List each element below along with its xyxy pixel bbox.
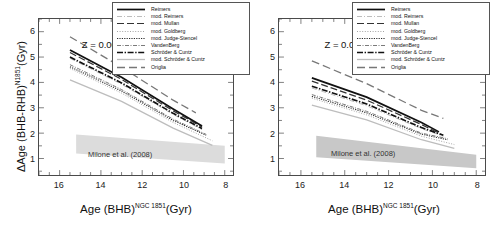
x-tick-label: 14 <box>96 180 106 190</box>
legend-swatch-icon <box>116 13 146 20</box>
legend-swatch-icon <box>116 20 146 27</box>
x-axis-label-left: Age (BHB)NGC 1851(Gyr) <box>80 202 192 215</box>
band-label-right: Milone et al. (2008) <box>331 149 395 158</box>
legend-label: Reimers <box>391 6 410 13</box>
x-tick-label: 12 <box>137 180 147 190</box>
panel-left: 161412108 123456 Z = 0.001 Milone et al.… <box>0 0 252 225</box>
x-tick-label: 16 <box>54 180 64 190</box>
panel-right: 161412108 123456 Z = 0.002 Milone et al.… <box>252 0 504 225</box>
x-tick-label: 10 <box>428 180 438 190</box>
y-axis-label-unit: (Gyr) <box>15 41 27 66</box>
y-axis-label-main: ΔAge (BHB-RHB) <box>15 85 27 172</box>
x-axis-label-sup: NGC 1851 <box>135 202 166 209</box>
legend-swatch-icon <box>356 56 386 63</box>
legend-right: Reimersmod. Reimersmod. Mullanmod. Goldb… <box>352 2 490 75</box>
legend-label: mod. Schröder & Cuntz <box>391 56 445 63</box>
x-axis-label-main: Age (BHB) <box>80 203 135 215</box>
legend-item: mod. Mullan <box>116 20 245 27</box>
legend-item: VandenBerg <box>116 42 245 49</box>
x-axis-label-sup: NGC 1851 <box>383 202 414 209</box>
legend-label: mod. Mullan <box>151 20 179 27</box>
x-tick-label: 10 <box>179 180 189 190</box>
legend-item: Origlia <box>356 64 485 71</box>
x-axis-label-unit: (Gyr) <box>414 203 440 215</box>
y-tick-label: 1 <box>264 154 275 164</box>
legend-swatch-icon <box>356 35 386 42</box>
legend-item: mod. Reimers <box>116 13 245 20</box>
legend-label: mod. Goldberg <box>391 28 425 35</box>
legend-label: Origlia <box>151 64 166 71</box>
legend-item: mod. Schröder & Cuntz <box>356 56 485 63</box>
legend-item: mod. Judge-Stencel <box>116 35 245 42</box>
legend-item: mod. Reimers <box>356 13 485 20</box>
legend-swatch-icon <box>116 6 146 13</box>
legend-label: mod. Judge-Stencel <box>391 35 437 42</box>
y-axis-label: ΔAge (BHB-RHB)N1851(Gyr) <box>14 41 27 172</box>
legend-item: Schröder & Cuntz <box>116 49 245 56</box>
legend-swatch-icon <box>116 56 146 63</box>
legend-swatch-icon <box>356 28 386 35</box>
legend-swatch-icon <box>356 49 386 56</box>
legend-item: mod. Schröder & Cuntz <box>116 56 245 63</box>
band-label-left: Milone et al. (2008) <box>88 150 152 159</box>
y-tick-label: 5 <box>264 52 275 62</box>
legend-label: Reimers <box>151 6 170 13</box>
y-axis-label-sup: N1851 <box>14 66 21 85</box>
legend-label: mod. Schröder & Cuntz <box>151 56 205 63</box>
y-tick-label: 2 <box>264 129 275 139</box>
y-tick-label: 3 <box>264 103 275 113</box>
legend-swatch-icon <box>116 28 146 35</box>
legend-label: VandenBerg <box>151 42 179 49</box>
legend-label: VandenBerg <box>391 42 419 49</box>
legend-label: mod. Reimers <box>151 13 183 20</box>
legend-swatch-icon <box>356 64 386 71</box>
legend-label: mod. Judge-Stencel <box>151 35 197 42</box>
legend-left: Reimersmod. Reimersmod. Mullanmod. Goldb… <box>112 2 250 75</box>
x-axis-label-right: Age (BHB)NGC 1851(Gyr) <box>328 202 440 215</box>
legend-item: mod. Goldberg <box>116 28 245 35</box>
y-tick-label: 4 <box>264 77 275 87</box>
legend-label: mod. Reimers <box>391 13 423 20</box>
x-tick-label: 12 <box>384 180 394 190</box>
legend-swatch-icon <box>356 13 386 20</box>
x-tick-label: 8 <box>475 180 480 190</box>
legend-swatch-icon <box>116 42 146 49</box>
y-tick-label: 6 <box>264 26 275 36</box>
legend-item: mod. Judge-Stencel <box>356 35 485 42</box>
legend-swatch-icon <box>356 42 386 49</box>
legend-item: Origlia <box>116 64 245 71</box>
legend-label: mod. Mullan <box>391 20 419 27</box>
figure-root: 161412108 123456 Z = 0.001 Milone et al.… <box>0 0 504 225</box>
legend-item: Reimers <box>356 6 485 13</box>
x-tick-label: 8 <box>223 180 228 190</box>
legend-item: mod. Goldberg <box>356 28 485 35</box>
legend-item: Schröder & Cuntz <box>356 49 485 56</box>
x-tick-label: 14 <box>339 180 349 190</box>
legend-label: Schröder & Cuntz <box>391 49 432 56</box>
legend-swatch-icon <box>356 6 386 13</box>
x-tick-label: 16 <box>295 180 305 190</box>
legend-item: VandenBerg <box>356 42 485 49</box>
legend-item: mod. Mullan <box>356 20 485 27</box>
y-tick-label: 6 <box>24 26 35 36</box>
x-axis-label-main: Age (BHB) <box>328 203 383 215</box>
legend-swatch-icon <box>116 49 146 56</box>
legend-item: Reimers <box>116 6 245 13</box>
x-axis-label-unit: (Gyr) <box>166 203 192 215</box>
legend-label: mod. Goldberg <box>151 28 185 35</box>
legend-label: Schröder & Cuntz <box>151 49 192 56</box>
legend-swatch-icon <box>356 20 386 27</box>
legend-swatch-icon <box>116 64 146 71</box>
legend-swatch-icon <box>116 35 146 42</box>
legend-label: Origlia <box>391 64 406 71</box>
